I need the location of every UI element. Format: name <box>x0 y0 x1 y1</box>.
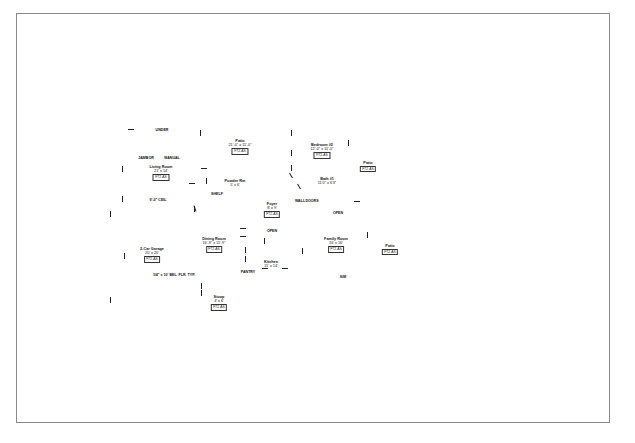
annotation-text: OPEN <box>267 229 277 233</box>
room-label: Foyer8' x 9'FT2-AS <box>264 202 280 218</box>
wall-tick <box>354 201 360 202</box>
room-dimensions: 21' x 14' <box>150 169 173 173</box>
annotation-text: 9'-0" CEIL <box>150 198 167 202</box>
wall-tick <box>201 283 202 289</box>
annotation-text: 1/4" x 10' BEL. FLR. TYP. <box>153 273 195 277</box>
wall-tick <box>291 165 292 171</box>
wall-tick <box>245 256 246 262</box>
wall-tick <box>348 140 349 146</box>
room-label: Patio21'-0" x 11'-0"FT2-AS <box>228 139 251 155</box>
room-area-tag: FT2-AS <box>382 249 398 255</box>
room-dimensions: 21'-0" x 11'-0" <box>228 143 251 147</box>
wall-tick <box>201 290 202 296</box>
room-label: 2-Car Garage20' x 20'FT2-AS <box>140 247 164 263</box>
wall-tick <box>110 211 111 217</box>
room-area-tag: FT2-AS <box>264 211 280 217</box>
wall-tick <box>110 297 111 303</box>
room-area-tag: FT2-AS <box>211 304 227 310</box>
wall-tick <box>262 268 268 269</box>
wall-tick <box>282 268 288 269</box>
room-area-tag: FT2-AS <box>232 148 248 154</box>
wall-tick <box>122 196 123 202</box>
room-dimensions: 12'-0" x 11'-0" <box>310 147 333 151</box>
annotation-text: MANUAL <box>164 156 180 160</box>
wall-tick <box>201 168 207 169</box>
wall-tick <box>240 236 246 237</box>
wall-tick <box>291 130 292 136</box>
annotation-text: WALL <box>295 199 305 203</box>
room-dimensions: 16' x 16' <box>324 241 348 245</box>
room-area-tag: FT2-AS <box>360 166 376 172</box>
room-name: Patio <box>382 244 398 248</box>
wall-tick <box>264 238 265 244</box>
wall-tick <box>245 247 246 253</box>
room-dimensions: 11'0" x 6'3" <box>318 181 336 185</box>
annotation-text: DOORS <box>305 199 318 203</box>
annotation-text: OPEN <box>333 211 343 215</box>
room-label: PatioFT2-AS <box>360 161 376 172</box>
wall-tick <box>206 178 207 184</box>
wall-tick <box>189 183 195 184</box>
room-label: Stoop4' x 6'FT2-AS <box>211 295 227 311</box>
room-area-tag: FT2-AS <box>328 246 344 252</box>
annotation-text: PANTRY <box>241 270 255 274</box>
wall-tick <box>128 129 134 130</box>
room-dimensions: 8' x 9' <box>264 206 280 210</box>
room-label: PatioFT2-AS <box>382 244 398 255</box>
room-dimensions: 16'-9" x 11'-9" <box>202 241 226 245</box>
wall-tick <box>122 166 123 172</box>
room-label: Bedroom #212'-0" x 11'-0"FT2-AS <box>310 143 333 159</box>
room-label: Bath #111'0" x 6'3" <box>318 177 336 185</box>
room-area-tag: FT2-AS <box>206 246 222 252</box>
room-label: Dining Room16'-9" x 11'-9"FT2-AS <box>202 237 226 253</box>
annotation-text: JAMBOR <box>138 156 154 160</box>
room-label: Powder Rm5' x 6' <box>225 179 246 187</box>
room-name: Patio <box>360 161 376 165</box>
room-label: Living Room21' x 14'FT2-AS <box>150 165 173 181</box>
annotation-text: SHELF <box>211 192 223 196</box>
annotation-text: SIM <box>340 275 346 279</box>
wall-tick <box>302 248 303 254</box>
wall-tick <box>124 253 125 259</box>
room-area-tag: FT2-AS <box>144 256 160 262</box>
annotation-text: UNDER <box>156 128 169 132</box>
room-area-tag: FT2-AS <box>153 174 169 180</box>
room-label: Family Room16' x 16'FT2-AS <box>324 237 348 253</box>
drawing-border <box>16 13 610 423</box>
room-dimensions: 5' x 6' <box>225 183 246 187</box>
wall-tick <box>291 150 292 156</box>
room-dimensions: 4' x 6' <box>211 299 227 303</box>
wall-tick <box>367 232 368 238</box>
wall-tick <box>240 228 246 229</box>
room-dimensions: 20' x 20' <box>140 251 164 255</box>
room-area-tag: FT2-AS <box>314 152 330 158</box>
wall-tick <box>200 130 201 136</box>
